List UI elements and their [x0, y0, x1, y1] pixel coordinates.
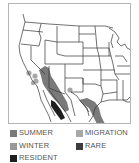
summer-swatch-icon — [10, 130, 17, 137]
map-legend: SUMMER MIGRATION WINTER RARE RESIDENT — [0, 127, 139, 163]
legend-label-winter: WINTER — [19, 141, 49, 151]
rare-swatch-icon — [76, 143, 83, 150]
legend-item-rare: RARE — [76, 141, 106, 151]
north-america-map — [9, 4, 131, 124]
state-borders — [19, 14, 131, 122]
migration-swatch-icon — [76, 130, 83, 137]
legend-item-summer: SUMMER — [10, 128, 53, 138]
range-map — [8, 3, 131, 124]
legend-item-winter: WINTER — [10, 141, 49, 151]
legend-label-migration: MIGRATION — [85, 128, 128, 138]
legend-label-resident: RESIDENT — [19, 153, 58, 163]
legend-label-rare: RARE — [85, 141, 106, 151]
legend-item-migration: MIGRATION — [76, 128, 128, 138]
winter-swatch-icon — [10, 143, 17, 150]
legend-label-summer: SUMMER — [19, 128, 53, 138]
legend-item-resident: RESIDENT — [10, 153, 58, 163]
resident-swatch-icon — [10, 155, 17, 162]
